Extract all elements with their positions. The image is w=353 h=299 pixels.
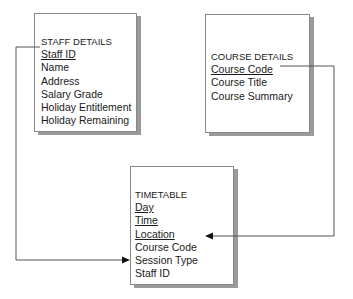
staff-to-timetable-connector	[16, 47, 124, 260]
arrowhead-icon	[205, 233, 213, 240]
arrowhead-icon	[122, 257, 130, 264]
course-to-timetable-connector	[212, 66, 334, 236]
relationship-connectors	[0, 0, 353, 299]
